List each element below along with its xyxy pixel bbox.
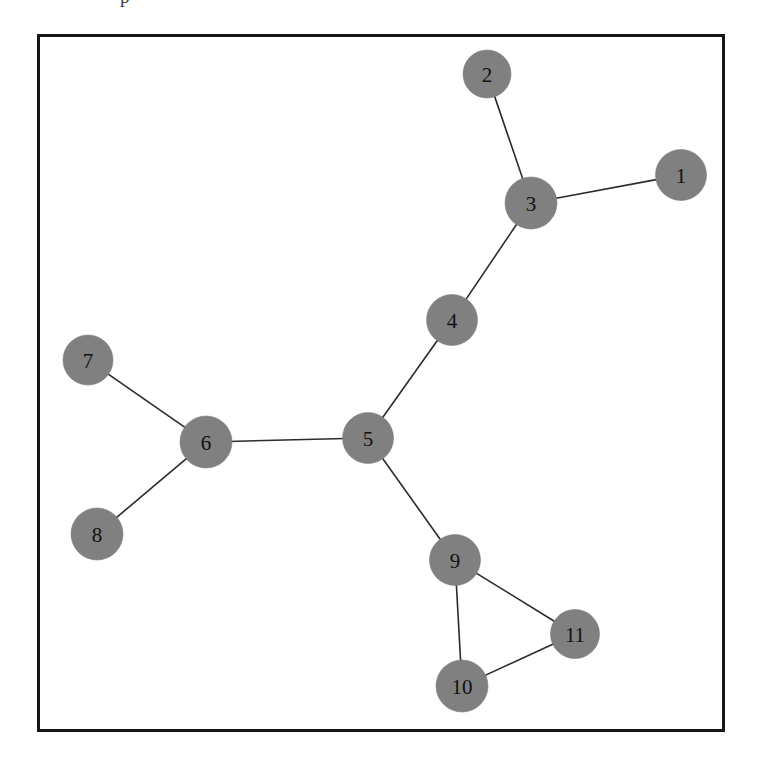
- graph-node-10[interactable]: 10: [436, 660, 488, 712]
- graph-node-label-7: 7: [83, 349, 94, 373]
- graph-node-2[interactable]: 2: [463, 50, 511, 98]
- graph-canvas: 1234567891011: [40, 37, 722, 729]
- graph-node-9[interactable]: 9: [430, 535, 481, 586]
- graph-node-label-10: 10: [452, 675, 473, 699]
- graph-node-label-8: 8: [92, 523, 103, 547]
- graph-node-label-5: 5: [363, 427, 374, 451]
- graph-edge-10-11: [483, 643, 556, 676]
- figure-frame: 1234567891011: [37, 34, 725, 732]
- graph-node-7[interactable]: 7: [63, 335, 113, 385]
- graph-edge-3-1: [554, 179, 659, 199]
- graph-node-11[interactable]: 11: [551, 610, 600, 659]
- graph-edge-2-3: [494, 94, 524, 181]
- graph-node-5[interactable]: 5: [343, 413, 394, 464]
- graph-edge-9-11: [474, 572, 557, 623]
- graph-node-8[interactable]: 8: [71, 508, 123, 560]
- graph-node-1[interactable]: 1: [656, 150, 707, 201]
- node-layer: 1234567891011: [63, 50, 707, 712]
- graph-edge-5-6: [229, 439, 346, 442]
- graph-node-6[interactable]: 6: [180, 416, 232, 468]
- graph-node-4[interactable]: 4: [427, 295, 478, 346]
- graph-edge-6-7: [106, 373, 187, 429]
- graph-node-label-1: 1: [676, 164, 687, 188]
- graph-node-label-9: 9: [450, 549, 461, 573]
- edge-layer: [106, 94, 659, 677]
- graph-edge-4-5: [381, 338, 439, 419]
- graph-node-label-3: 3: [526, 192, 537, 216]
- graph-node-label-2: 2: [482, 63, 493, 87]
- graph-node-3[interactable]: 3: [505, 177, 557, 229]
- graph-edge-6-8: [115, 457, 189, 519]
- clipped-text-fragment: p: [120, 0, 130, 8]
- graph-edge-9-10: [456, 582, 460, 663]
- graph-node-label-4: 4: [447, 309, 458, 333]
- graph-edge-5-9: [381, 456, 442, 541]
- graph-edge-3-4: [465, 222, 519, 301]
- graph-node-label-6: 6: [201, 431, 212, 455]
- graph-node-label-11: 11: [565, 623, 585, 647]
